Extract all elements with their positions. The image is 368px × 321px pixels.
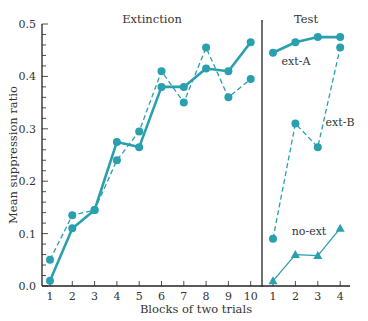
circle-marker — [46, 256, 54, 264]
circle-marker — [224, 93, 232, 101]
series-line-ext-B — [273, 48, 340, 239]
series-line-ext-A — [50, 42, 251, 280]
triangle-marker — [291, 250, 300, 258]
chart-labels: Mean suppression ratioExtinctionTestBloc… — [6, 12, 354, 316]
circle-marker — [113, 138, 121, 146]
y-tick-label: 0.0 — [19, 280, 37, 293]
annotation-ext-a: ext-A — [282, 55, 312, 68]
circle-marker — [336, 44, 344, 52]
circle-marker — [291, 38, 299, 46]
circle-marker — [180, 99, 188, 107]
circle-marker — [247, 75, 255, 83]
series-line-ext-B — [50, 48, 251, 260]
triangle-marker — [336, 224, 345, 232]
x-tick-label: 1 — [47, 290, 54, 303]
y-tick-label: 0.2 — [19, 175, 37, 188]
circle-marker — [158, 83, 166, 91]
y-tick-label: 0.4 — [19, 70, 37, 83]
annotation-ext-b: ext-B — [326, 116, 355, 129]
circle-marker — [314, 143, 322, 151]
circle-marker — [180, 83, 188, 91]
panel-title-test: Test — [294, 12, 318, 26]
circle-marker — [314, 33, 322, 41]
circle-marker — [269, 49, 277, 57]
circle-marker — [46, 277, 54, 285]
panel-title-extinction: Extinction — [122, 12, 182, 26]
circle-marker — [291, 120, 299, 128]
circle-marker — [135, 143, 143, 151]
x-tick-label: 2 — [69, 290, 76, 303]
circle-marker — [68, 211, 76, 219]
circle-marker — [224, 67, 232, 75]
y-tick-label: 0.3 — [19, 123, 37, 136]
circle-marker — [202, 65, 210, 73]
y-tick-label: 0.5 — [19, 18, 37, 31]
x-tick-label: 4 — [337, 290, 344, 303]
plot-area — [46, 33, 345, 285]
circle-marker — [113, 156, 121, 164]
circle-marker — [68, 224, 76, 232]
circle-marker — [336, 33, 344, 41]
circle-marker — [269, 235, 277, 243]
chart: 0.00.10.20.30.40.5123456789101234 Mean s… — [0, 0, 368, 321]
y-axis-label: Mean suppression ratio — [6, 86, 20, 224]
circle-marker — [135, 127, 143, 135]
x-tick-label: 1 — [270, 290, 277, 303]
circle-marker — [247, 38, 255, 46]
circle-marker — [158, 67, 166, 75]
circle-marker — [202, 44, 210, 52]
circle-marker — [91, 206, 99, 214]
series-line-ext-A — [273, 37, 340, 53]
x-tick-label: 3 — [314, 290, 321, 303]
x-tick-label: 3 — [91, 290, 98, 303]
x-tick-label: 2 — [292, 290, 299, 303]
x-tick-label: 4 — [113, 290, 120, 303]
y-tick-label: 0.1 — [19, 228, 37, 241]
x-axis-label: Blocks of two trials — [140, 302, 252, 316]
annotation-no-ext: no-ext — [292, 225, 327, 238]
